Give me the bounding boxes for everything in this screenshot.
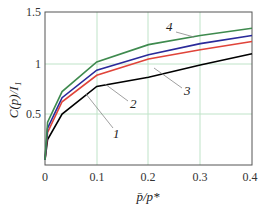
svg-text:0.3: 0.3 bbox=[193, 170, 208, 184]
label-3: 3 bbox=[183, 83, 191, 98]
svg-text:1: 1 bbox=[35, 57, 41, 71]
svg-text:1.5: 1.5 bbox=[26, 5, 41, 19]
label-2: 2 bbox=[130, 96, 137, 111]
svg-text:0.4: 0.4 bbox=[243, 170, 258, 184]
x-axis-label: p̄/p* bbox=[135, 189, 160, 204]
x-tick-labels: 0 0.1 0.2 0.3 0.4 bbox=[42, 170, 258, 184]
svg-text:0.2: 0.2 bbox=[141, 170, 156, 184]
y-tick-labels: 0.5 1 1.5 bbox=[26, 5, 41, 121]
label-1: 1 bbox=[113, 126, 120, 141]
grid bbox=[45, 12, 252, 165]
svg-text:0.1: 0.1 bbox=[90, 170, 105, 184]
y-axis-label: C(p)/I₁ bbox=[6, 82, 21, 118]
label-4: 4 bbox=[166, 19, 173, 34]
svg-text:0: 0 bbox=[42, 170, 48, 184]
svg-text:0.5: 0.5 bbox=[26, 107, 41, 121]
curve-labels: 1 2 3 4 bbox=[113, 19, 191, 141]
chart: 1 2 3 4 0.5 1 1.5 0 0.1 0.2 0.3 0.4 p̄/p… bbox=[0, 0, 262, 208]
